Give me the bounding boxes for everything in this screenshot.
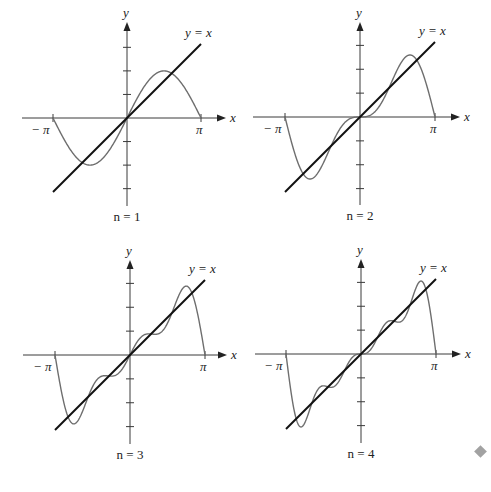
x-axis-label: x [464,346,471,361]
x-axis-arrow-icon [217,115,226,122]
identity-line-label: y = x [187,261,216,276]
x-axis [23,352,227,359]
x-axis-arrow-icon [451,114,460,121]
panel-n4: y x − π π y = x n = 4 [255,242,471,461]
y-axis-arrow-icon [357,22,364,31]
x-axis-label: x [229,110,236,125]
y-axis-label: y [355,242,363,257]
identity-line-label: y = x [417,23,446,38]
identity-line-label: y = x [183,25,212,40]
neg-pi-label: − π [264,358,283,373]
panel-caption: n = 1 [114,209,141,224]
neg-pi-label: − π [31,122,50,137]
panel-caption: n = 3 [117,447,144,462]
y-axis-arrow-icon [124,22,131,31]
y-axis-label: y [354,5,362,20]
pi-label: π [196,122,203,137]
identity-line-label: y = x [418,260,447,275]
x-axis-arrow-icon [452,351,461,358]
x-axis-label: x [463,109,470,124]
pi-label: π [430,121,437,136]
x-axis-label: x [230,347,237,362]
pi-label: π [431,358,438,373]
pi-label: π [200,359,207,374]
y-axis-label: y [121,5,129,20]
panel-caption: n = 2 [347,208,374,223]
panel-n2: y x − π π y = x n = 2 [253,5,470,223]
panel-caption: n = 4 [348,446,375,461]
y-axis-arrow-icon [358,259,365,268]
fourier-approximation-figure: y x − π π y = x n = 1 y x − π π y = x n … [0,0,491,492]
panel-n3: y x − π π y = x n = 3 [23,243,237,462]
neg-pi-label: − π [263,121,282,136]
x-axis-arrow-icon [218,352,227,359]
y-axis-label: y [124,243,132,258]
neg-pi-label: − π [33,359,52,374]
y-axis-arrow-icon [127,260,134,269]
panel-n1: y x − π π y = x n = 1 [22,5,236,224]
